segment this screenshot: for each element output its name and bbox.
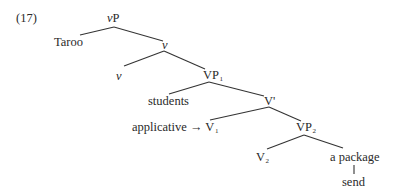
node-V2: V2: [256, 151, 269, 167]
edge-v-VP1: [164, 51, 205, 69]
node-a-package: a package: [330, 151, 380, 163]
edge-vP-Taroo: [80, 27, 114, 35]
edge-Vprime-VP2: [269, 107, 301, 121]
node-V1-sub: 1: [215, 127, 219, 135]
node-VP2: VP2: [296, 121, 316, 137]
node-students: students: [148, 95, 189, 107]
edge-Vprime-V1: [210, 107, 269, 120]
node-V1-prefix: applicative →: [132, 120, 205, 134]
example-number: (17): [16, 12, 37, 24]
node-V-prime: V': [264, 95, 275, 107]
node-vP: vP: [107, 12, 120, 24]
node-VP1: VP1: [203, 69, 223, 85]
node-VP1-cat: VP: [203, 68, 219, 82]
tree-edges: [0, 0, 395, 195]
node-vP-suffix: P: [113, 11, 120, 25]
node-VP2-cat: VP: [296, 120, 312, 134]
node-v-bar: v: [162, 39, 168, 51]
node-Taroo: Taroo: [54, 36, 83, 48]
edge-VP2-V2: [267, 135, 304, 149]
node-v-head: v: [116, 70, 122, 82]
node-send: send: [342, 176, 365, 188]
node-V2-cat: V: [256, 150, 265, 164]
edge-v-vhead: [124, 51, 164, 66]
node-VP2-sub: 2: [312, 127, 316, 135]
node-V1-cat: V: [205, 120, 214, 134]
node-V1: applicative → V1: [132, 121, 218, 137]
edge-vP-v: [114, 27, 163, 41]
node-VP1-sub: 1: [219, 75, 223, 83]
node-V2-sub: 2: [266, 157, 270, 165]
